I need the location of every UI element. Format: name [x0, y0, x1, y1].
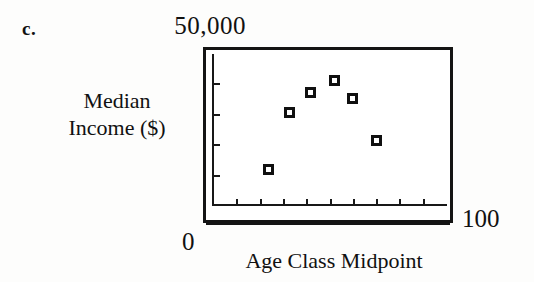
y-axis-tick [214, 175, 220, 177]
y-axis-title-line-2: Income ($) [42, 115, 192, 142]
data-point [347, 93, 358, 104]
x-axis-min-label: 0 [182, 228, 195, 256]
x-axis-tick [376, 199, 378, 204]
scatter-plot-figure: c. 50,000 Median Income ($) 0 100 Age Cl… [0, 0, 534, 282]
y-axis-tick [214, 144, 220, 146]
plot-area [206, 50, 450, 220]
panel-letter: c. [22, 18, 36, 40]
data-point [371, 135, 382, 146]
data-point [305, 87, 316, 98]
x-axis-tick [399, 199, 401, 204]
x-axis-max-label: 100 [462, 205, 500, 233]
data-point [329, 75, 340, 86]
x-axis-tick [423, 199, 425, 204]
x-axis-title: Age Class Midpoint [203, 248, 465, 274]
x-axis-tick [306, 199, 308, 204]
y-axis-title: Median Income ($) [42, 88, 192, 142]
y-axis-tick [214, 114, 220, 116]
data-point [263, 164, 274, 175]
y-axis-tick [214, 83, 220, 85]
data-point [284, 107, 295, 118]
y-axis-max-label: 50,000 [120, 12, 246, 40]
x-axis-line [212, 204, 447, 206]
plot-frame [203, 47, 453, 223]
y-axis-line [212, 54, 214, 206]
x-axis-tick [330, 199, 332, 204]
x-axis-tick [353, 199, 355, 204]
y-axis-title-line-1: Median [42, 88, 192, 115]
x-axis-tick [283, 199, 285, 204]
x-axis-tick [260, 199, 262, 204]
x-axis-tick [236, 199, 238, 204]
